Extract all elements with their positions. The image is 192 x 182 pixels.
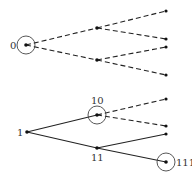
root-0-node — [24, 43, 28, 47]
leaf-node — [164, 97, 167, 100]
root-1-label: 1 — [17, 127, 23, 138]
leaf-111-node — [164, 160, 168, 164]
node-11-label: 11 — [91, 152, 104, 163]
leaf-node — [164, 9, 167, 12]
edge-b-leaf3 — [97, 47, 166, 60]
edge-b-leaf4 — [97, 60, 166, 75]
root-0-label: 0 — [10, 40, 16, 51]
leaf-node — [164, 124, 167, 127]
edge-11-110 — [97, 134, 166, 148]
edge-10-100 — [97, 99, 166, 115]
leaf-111-label: 111 — [176, 157, 192, 168]
edge-1-11 — [27, 132, 97, 148]
node-10-label: 10 — [91, 95, 104, 106]
leaf-node — [164, 73, 167, 76]
edge-0-b — [26, 45, 97, 60]
leaf-node — [164, 45, 167, 48]
node-a — [95, 26, 99, 30]
node-b — [95, 58, 99, 62]
edge-a-leaf2 — [97, 28, 166, 39]
edge-1-10 — [27, 115, 97, 132]
edge-11-111 — [97, 148, 166, 162]
node-10 — [95, 113, 99, 117]
bottom-tree: 1 10 11 111 — [17, 95, 192, 171]
leaf-node — [164, 37, 167, 40]
tree-diagram: 0 1 10 11 111 — [0, 0, 192, 182]
top-tree: 0 — [10, 9, 168, 76]
edge-a-leaf1 — [97, 11, 166, 28]
root-1-node — [25, 130, 29, 134]
edge-10-101 — [97, 115, 166, 126]
leaf-node — [164, 132, 167, 135]
edge-0-a — [26, 28, 97, 45]
node-11 — [95, 146, 99, 150]
